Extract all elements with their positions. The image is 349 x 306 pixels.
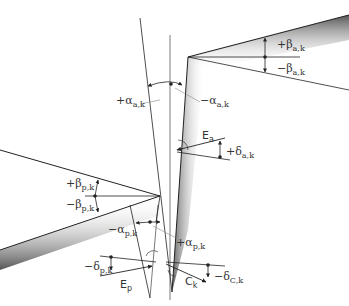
label-delta-a-pos: +δa,k [226,145,254,160]
label-alpha-p-pos: +αp,k [176,236,205,251]
earth-pressure-diagram: +βa,k −βa,k +αa,k −αa,k Ea +δa,k +βp,k −… [0,0,349,306]
diagram-canvas: +βa,k −βa,k +αa,k −αa,k Ea +δa,k +βp,k −… [0,0,349,306]
alpha-p-arrows [136,220,180,240]
label-Ea: Ea [202,129,214,144]
label-beta-p-pos: +βp,k [66,177,94,192]
neg-slope-ref-a [188,57,349,90]
label-Ep: Ep [120,278,132,293]
label-delta-c-neg: −δC,k [214,270,243,285]
label-delta-p-neg: −δp,k [84,260,113,275]
label-alpha-p-neg: −αp,k [108,223,137,238]
label-alpha-a-pos: +αa,k [116,94,145,109]
label-alpha-a-neg: −αa,k [200,94,229,109]
alpha-a-arc [148,82,182,86]
wall [172,57,205,292]
label-beta-a-neg: −βa,k [277,62,305,77]
label-beta-p-neg: −βp,k [66,198,94,213]
